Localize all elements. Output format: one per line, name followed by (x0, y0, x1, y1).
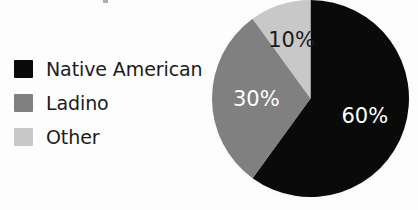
legend-item-ladino: Ladino (14, 86, 209, 120)
legend-label-ladino: Ladino (46, 94, 109, 113)
pie-graphic: 60%30%10% (212, 0, 409, 197)
legend-swatch-icon-other (14, 128, 33, 146)
legend-label-native-american: Native American (46, 60, 202, 79)
pie-slice-value-label: 10% (268, 28, 315, 52)
legend-swatch-icon-ladino (14, 94, 33, 112)
pie-chart-figure: Native American Ladino Other 60%30%10% (0, 0, 418, 210)
legend-label-other: Other (46, 128, 99, 147)
pie-slice-value-label: 60% (341, 104, 388, 128)
legend-item-other: Other (14, 120, 209, 154)
scan-artifact (103, 0, 108, 3)
pie-slice-value-label: 30% (233, 87, 280, 111)
pie-svg: 60%30%10% (212, 0, 409, 197)
chart-legend: Native American Ladino Other (14, 52, 209, 154)
legend-swatch-icon-native-american (14, 60, 33, 78)
legend-item-native-american: Native American (14, 52, 209, 86)
